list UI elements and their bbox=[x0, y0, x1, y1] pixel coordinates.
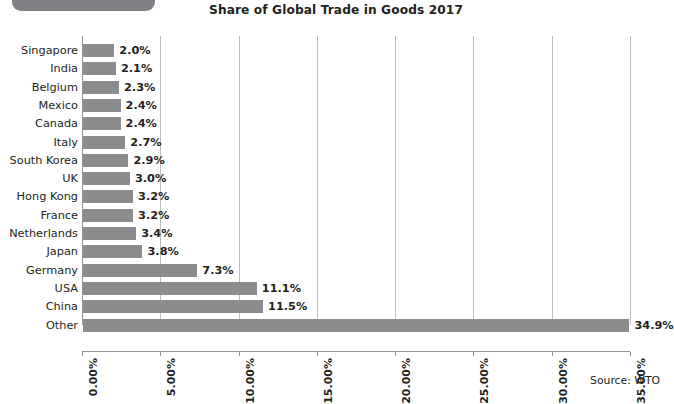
category-label: Other bbox=[0, 319, 78, 332]
bar bbox=[83, 62, 116, 75]
tick-mark bbox=[317, 352, 318, 356]
category-label: Germany bbox=[0, 264, 78, 277]
tick-mark bbox=[239, 352, 240, 356]
chart-title: Share of Global Trade in Goods 2017 bbox=[0, 3, 672, 17]
x-tick-label: 10.00% bbox=[244, 358, 257, 404]
bar bbox=[83, 282, 257, 295]
category-label: Japan bbox=[0, 245, 78, 258]
bar-row: Belgium2.3% bbox=[0, 81, 672, 94]
bar-row: South Korea2.9% bbox=[0, 154, 672, 167]
value-label: 2.9% bbox=[133, 154, 164, 167]
tick-mark bbox=[82, 352, 83, 356]
value-label: 3.8% bbox=[147, 245, 178, 258]
category-label: Mexico bbox=[0, 99, 78, 112]
bar-chart: Singapore2.0%India2.1%Belgium2.3%Mexico2… bbox=[0, 31, 672, 326]
value-label: 3.0% bbox=[135, 172, 166, 185]
bar bbox=[83, 300, 263, 313]
bar-row: Singapore2.0% bbox=[0, 44, 672, 57]
bar bbox=[83, 190, 133, 203]
value-label: 2.3% bbox=[124, 81, 155, 94]
value-label: 2.7% bbox=[130, 136, 161, 149]
bar-row: France3.2% bbox=[0, 209, 672, 222]
bar-row: Mexico2.4% bbox=[0, 99, 672, 112]
value-label: 34.9% bbox=[634, 319, 673, 332]
x-tick-label: 0.00% bbox=[87, 358, 100, 396]
value-label: 2.0% bbox=[119, 44, 150, 57]
bar bbox=[83, 99, 121, 112]
value-label: 2.1% bbox=[121, 62, 152, 75]
x-tick-label: 20.00% bbox=[400, 358, 413, 404]
value-label: 3.2% bbox=[138, 190, 169, 203]
bar bbox=[83, 319, 629, 332]
category-label: Belgium bbox=[0, 81, 78, 94]
x-axis-line bbox=[82, 351, 630, 352]
bar-row: Italy2.7% bbox=[0, 136, 672, 149]
x-tick-label: 5.00% bbox=[165, 358, 178, 396]
bar-row: China11.5% bbox=[0, 300, 672, 313]
tick-mark bbox=[473, 352, 474, 356]
x-tick-label: 25.00% bbox=[478, 358, 491, 404]
category-label: France bbox=[0, 209, 78, 222]
category-label: Netherlands bbox=[0, 227, 78, 240]
category-label: UK bbox=[0, 172, 78, 185]
bar-row: India2.1% bbox=[0, 62, 672, 75]
tick-mark bbox=[395, 352, 396, 356]
bar-row: USA11.1% bbox=[0, 282, 672, 295]
bar bbox=[83, 209, 133, 222]
bar bbox=[83, 172, 130, 185]
value-label: 11.5% bbox=[268, 300, 307, 313]
category-label: Hong Kong bbox=[0, 190, 78, 203]
value-label: 7.3% bbox=[202, 264, 233, 277]
bar-row: Other34.9% bbox=[0, 319, 672, 332]
value-label: 11.1% bbox=[262, 282, 301, 295]
bar bbox=[83, 227, 136, 240]
x-tick-label: 30.00% bbox=[557, 358, 570, 404]
category-label: Italy bbox=[0, 136, 78, 149]
bar bbox=[83, 245, 142, 258]
value-label: 3.4% bbox=[141, 227, 172, 240]
tick-mark bbox=[630, 352, 631, 356]
category-label: China bbox=[0, 300, 78, 313]
tick-mark bbox=[160, 352, 161, 356]
bar-row: Germany7.3% bbox=[0, 264, 672, 277]
bar-row: Netherlands3.4% bbox=[0, 227, 672, 240]
category-label: India bbox=[0, 62, 78, 75]
tick-mark bbox=[552, 352, 553, 356]
x-tick-label: 15.00% bbox=[322, 358, 335, 404]
bar-row: Japan3.8% bbox=[0, 245, 672, 258]
category-label: USA bbox=[0, 282, 78, 295]
value-label: 2.4% bbox=[126, 117, 157, 130]
bar bbox=[83, 264, 197, 277]
value-label: 2.4% bbox=[126, 99, 157, 112]
bar bbox=[83, 44, 114, 57]
value-label: 3.2% bbox=[138, 209, 169, 222]
bar bbox=[83, 81, 119, 94]
category-label: South Korea bbox=[0, 154, 78, 167]
bar bbox=[83, 117, 121, 130]
category-label: Singapore bbox=[0, 44, 78, 57]
bar bbox=[83, 136, 125, 149]
source-note: Source: WTO bbox=[590, 374, 660, 387]
category-label: Canada bbox=[0, 117, 78, 130]
bar-row: Canada2.4% bbox=[0, 117, 672, 130]
bar-row: Hong Kong3.2% bbox=[0, 190, 672, 203]
bar bbox=[83, 154, 128, 167]
bar-row: UK3.0% bbox=[0, 172, 672, 185]
